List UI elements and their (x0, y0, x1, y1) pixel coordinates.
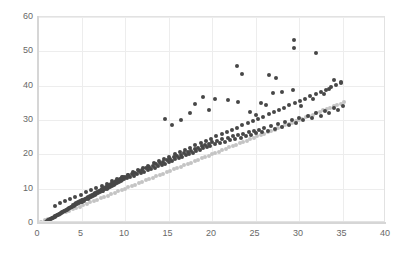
x-tick-label: 10 (111, 228, 137, 238)
x-tick-label: 40 (372, 228, 398, 238)
x-axis-tick-labels: 0510152025303540 (0, 0, 406, 257)
x-tick-label: 35 (329, 228, 355, 238)
scatter-chart: 0102030405060 0510152025303540 (0, 0, 406, 257)
x-tick-label: 5 (68, 228, 94, 238)
x-tick-label: 0 (24, 228, 50, 238)
x-tick-label: 15 (155, 228, 181, 238)
x-tick-label: 20 (198, 228, 224, 238)
x-tick-label: 30 (285, 228, 311, 238)
x-tick-label: 25 (242, 228, 268, 238)
